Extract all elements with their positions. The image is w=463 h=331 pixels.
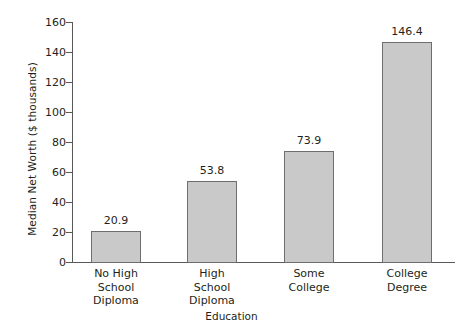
y-axis-tick-label: 100 <box>4 106 66 119</box>
bar-value-label: 73.9 <box>261 134 357 147</box>
bar-value-label: 146.4 <box>359 25 455 38</box>
x-axis-category-label-line: No High <box>68 267 164 281</box>
bar <box>382 42 432 263</box>
y-axis-tick-label: 0 <box>4 256 66 269</box>
x-axis-category-label-line: Degree <box>359 281 455 295</box>
bar-chart: Median Net Worth ($ thousands) 020406080… <box>0 0 463 331</box>
x-axis-category-label-line: Diploma <box>164 294 260 308</box>
y-axis-tick-label: 40 <box>4 196 66 209</box>
y-axis-tick-label: 160 <box>4 16 66 29</box>
y-axis-tick-label: 120 <box>4 76 66 89</box>
x-axis-title: Education <box>0 310 463 322</box>
y-axis-tick-label: 80 <box>4 136 66 149</box>
bar <box>284 151 334 263</box>
x-axis-category-label-line: Some <box>261 267 357 281</box>
bar <box>91 231 141 263</box>
y-axis-tick-label: 60 <box>4 166 66 179</box>
y-axis-tick-label: 20 <box>4 226 66 239</box>
x-axis-category-label-line: College <box>359 267 455 281</box>
y-axis-line <box>72 22 73 263</box>
bar <box>187 181 237 263</box>
bar-value-label: 53.8 <box>164 164 260 177</box>
bar-value-label: 20.9 <box>68 214 164 227</box>
x-axis-category-label-line: College <box>261 281 357 295</box>
x-axis-category-label: HighSchoolDiploma <box>164 267 260 308</box>
x-axis-category-label-line: High <box>164 267 260 281</box>
x-axis-category-label: No HighSchoolDiploma <box>68 267 164 308</box>
y-axis-tick-label: 140 <box>4 46 66 59</box>
x-axis-category-label-line: School <box>164 281 260 295</box>
x-axis-category-label-line: Diploma <box>68 294 164 308</box>
x-axis-category-label: SomeCollege <box>261 267 357 294</box>
x-axis-category-label-line: School <box>68 281 164 295</box>
x-axis-category-label: CollegeDegree <box>359 267 455 294</box>
